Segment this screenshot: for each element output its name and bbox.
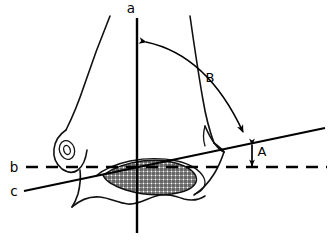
- label-angle-A: A: [258, 144, 267, 159]
- label-axis-b: b: [10, 159, 19, 175]
- label-angle-B: B: [206, 70, 215, 85]
- label-axis-c: c: [10, 183, 17, 199]
- lateral-notch-inner: [204, 126, 206, 146]
- malleolus-oval-inclusion: [57, 139, 77, 162]
- lateral-malleolus-outline: [194, 152, 224, 195]
- anatomical-angle-diagram: a b c A B: [0, 0, 329, 242]
- angle-B-arc: [146, 42, 243, 132]
- diagram-canvas: a b c A B: [0, 0, 329, 242]
- label-axis-a: a: [127, 0, 135, 16]
- tibia-medial-cortex: [66, 16, 110, 130]
- distal-tibia-inferior-contour: [72, 195, 205, 207]
- malleolus-oval-inner: [63, 145, 72, 156]
